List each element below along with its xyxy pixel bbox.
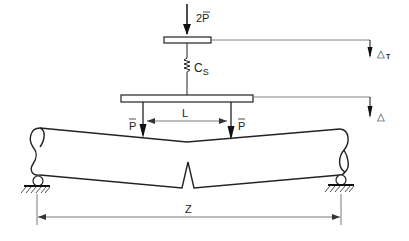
spring-label: CS [194,61,209,77]
right-load-arrow [228,102,235,140]
delta-label: △ [377,111,385,122]
delta-t-label: △T [377,48,391,60]
right-load-label: P [238,120,245,132]
right-support [325,175,354,192]
left-support [21,176,50,193]
inner-span-label: L [182,107,188,119]
top-load-arrow [183,4,191,35]
load-plate [121,95,253,102]
delta-t-indicator [368,40,373,58]
left-load-label: P [129,120,136,132]
delta-indicator [368,97,373,118]
left-load-arrow [140,102,147,138]
spring [184,43,190,95]
outer-span-label: Z [185,203,192,215]
beam-diagram: 2P CS △T △ P P L [0,0,409,241]
top-plate [164,37,211,43]
top-load-label: 2P [196,12,209,24]
beam [30,128,348,188]
